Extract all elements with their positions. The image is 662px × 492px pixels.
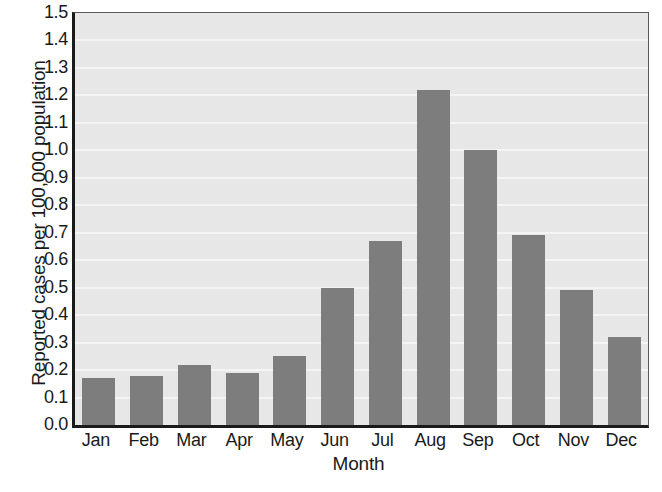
bar [130, 376, 163, 425]
x-tick-label: Aug [406, 429, 454, 451]
y-tick-label: 0.1 [28, 388, 68, 406]
x-tick-label: Oct [502, 429, 550, 451]
x-tick-label: May [263, 429, 311, 451]
y-tick-label: 0.9 [28, 168, 68, 186]
x-axis-title: Month [72, 452, 645, 476]
x-tick-label: Mar [168, 429, 216, 451]
bar [560, 290, 593, 425]
bar [321, 288, 354, 425]
bar [512, 235, 545, 425]
plot-area [72, 12, 649, 428]
bar [369, 241, 402, 425]
y-tick-label: 1.4 [28, 30, 68, 48]
x-tick-label: Sep [454, 429, 502, 451]
x-axis-tick-labels: JanFebMarAprMayJunJulAugSepOctNovDec [72, 429, 645, 453]
y-tick-label: 1.1 [28, 113, 68, 131]
bar-series [75, 13, 648, 425]
bar [82, 378, 115, 425]
y-tick-label: 0.5 [28, 278, 68, 296]
x-tick-label: Dec [597, 429, 645, 451]
x-tick-label: Feb [120, 429, 168, 451]
bar-chart-figure: Reported cases per 100,000 population 1.… [0, 0, 662, 492]
x-tick-label: Apr [215, 429, 263, 451]
y-tick-label: 0.0 [28, 415, 68, 433]
y-tick-label: 0.7 [28, 223, 68, 241]
y-tick-label: 0.4 [28, 305, 68, 323]
y-tick-label: 1.5 [28, 3, 68, 21]
y-tick-label: 1.0 [28, 140, 68, 158]
x-tick-label: Jan [72, 429, 120, 451]
y-tick-label: 0.6 [28, 250, 68, 268]
bar [464, 150, 497, 425]
y-tick-label: 0.2 [28, 360, 68, 378]
x-tick-label: Jun [311, 429, 359, 451]
y-axis-tick-labels: 1.51.41.31.21.11.00.90.80.70.60.50.40.30… [28, 12, 68, 424]
bar [178, 365, 211, 425]
x-tick-label: Nov [550, 429, 598, 451]
y-tick-label: 0.3 [28, 333, 68, 351]
bar [417, 90, 450, 425]
y-tick-label: 0.8 [28, 195, 68, 213]
bar [608, 337, 641, 425]
x-tick-label: Jul [359, 429, 407, 451]
y-tick-label: 1.2 [28, 85, 68, 103]
bar [226, 373, 259, 425]
bar [273, 356, 306, 425]
y-tick-label: 1.3 [28, 58, 68, 76]
